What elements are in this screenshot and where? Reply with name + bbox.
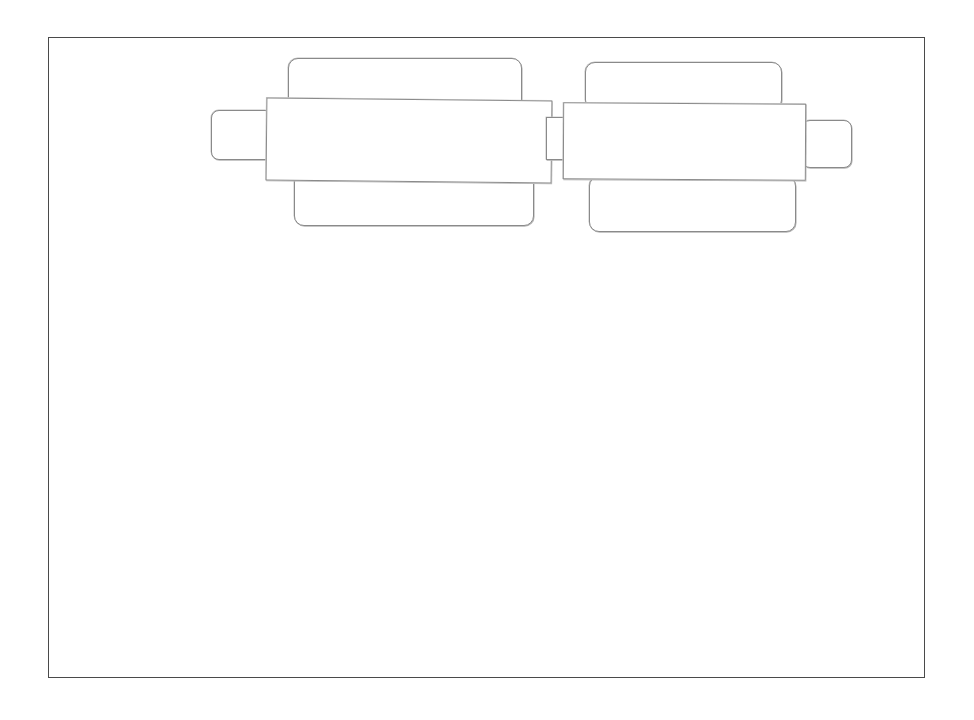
right-nav-tab[interactable] [802,120,852,168]
right-back-card-bottom [589,176,796,232]
left-nav-tab[interactable] [211,110,273,160]
right-main-card[interactable] [563,102,806,180]
left-main-card[interactable] [266,98,553,184]
